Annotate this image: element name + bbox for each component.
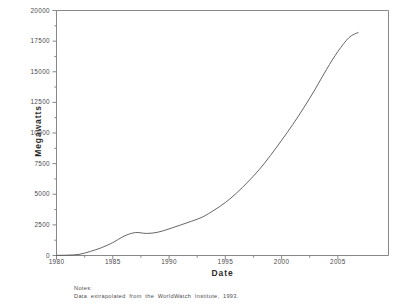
y-axis-tick-label: 12500: [8, 98, 50, 105]
data-series-line: [57, 33, 359, 256]
notes-body: Data extrapolated from the WorldWatch In…: [74, 293, 239, 301]
x-axis-tick-label: 1990: [149, 258, 189, 265]
x-axis-tick-label: 2005: [318, 258, 358, 265]
notes-block: Notes: Data extrapolated from the WorldW…: [74, 285, 239, 300]
y-axis-tick-label: 15000: [8, 68, 50, 75]
x-axis-tick-label: 1980: [37, 258, 77, 265]
chart-figure: Megawatts Date 0250050007500100001250015…: [0, 0, 397, 305]
y-axis-tick-label: 10000: [8, 129, 50, 136]
y-axis-tick-marks: [53, 11, 57, 256]
x-axis-tick-label: 1995: [205, 258, 245, 265]
x-axis-tick-label: 2000: [262, 258, 302, 265]
y-axis-tick-label: 2500: [8, 221, 50, 228]
y-axis-tick-label: 5000: [8, 190, 50, 197]
axis-frame: [57, 11, 389, 256]
notes-heading: Notes:: [74, 285, 239, 293]
y-axis-tick-label: 7500: [8, 160, 50, 167]
y-axis-tick-label: 17500: [8, 37, 50, 44]
y-axis-tick-label: 20000: [8, 7, 50, 14]
x-axis-tick-labels: 198019851990199520002005: [0, 258, 397, 272]
x-axis-tick-label: 1985: [93, 258, 133, 265]
